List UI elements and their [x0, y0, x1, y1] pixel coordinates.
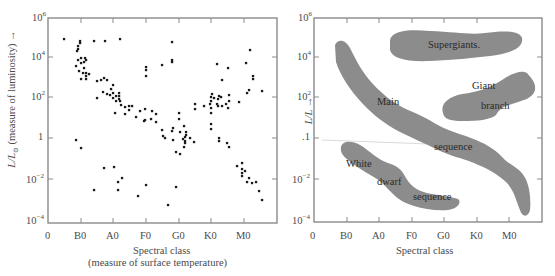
label-white: White: [346, 158, 372, 169]
data-point: [79, 42, 81, 44]
data-point: [124, 113, 126, 115]
data-point: [183, 125, 185, 127]
data-point: [178, 118, 180, 120]
data-point: [236, 165, 238, 167]
right-x-tick: G0: [437, 230, 450, 241]
data-point: [145, 184, 147, 186]
data-point: [112, 92, 114, 94]
data-point: [63, 38, 65, 40]
data-point: [258, 190, 260, 192]
right-y-tick-1e4: 104: [297, 49, 311, 62]
data-point: [93, 40, 95, 42]
faint-guide-line: [322, 140, 430, 144]
right-x-tick: M0: [502, 230, 517, 241]
data-point: [175, 186, 177, 188]
right-x-tick: A0: [372, 230, 385, 241]
right-y-tick-1e6: 106: [298, 10, 312, 23]
right-x-tick: F0: [406, 230, 417, 241]
left-y-tick-1e-4: 10−4: [26, 213, 44, 226]
data-point: [217, 105, 219, 107]
data-point: [213, 97, 215, 99]
left-x-tick: A0: [106, 230, 119, 241]
data-point: [80, 78, 82, 80]
data-point: [118, 98, 120, 100]
data-point: [241, 175, 243, 177]
data-point: [210, 100, 212, 102]
data-point: [145, 69, 147, 71]
left-y-tick-1e6: 106: [32, 10, 46, 23]
data-point: [78, 70, 80, 72]
data-point: [172, 139, 174, 141]
left-plot-frame: [48, 18, 277, 223]
data-point: [80, 57, 82, 59]
left-data-points: [63, 38, 263, 206]
data-point: [137, 195, 139, 197]
data-point: [83, 67, 85, 69]
data-point: [184, 136, 186, 138]
data-point: [84, 57, 86, 59]
data-point: [184, 142, 186, 144]
right-x-tick: K0: [470, 230, 483, 241]
data-point: [161, 64, 163, 66]
data-point: [112, 97, 114, 99]
data-point: [155, 113, 157, 115]
data-point: [76, 50, 78, 52]
data-point: [238, 101, 240, 103]
data-point: [117, 189, 119, 191]
data-point: [144, 108, 146, 110]
left-y-tick-1e-2: 10−2: [26, 172, 44, 185]
data-point: [96, 80, 98, 82]
data-point: [209, 103, 211, 105]
data-point: [112, 84, 114, 86]
data-point: [115, 95, 117, 97]
data-point: [249, 49, 251, 51]
data-point: [77, 59, 79, 61]
left-x-tick: M0: [236, 230, 251, 241]
left-x-tick: G0: [172, 230, 185, 241]
data-point: [210, 123, 212, 125]
data-point: [119, 38, 121, 40]
label-supergiants: Supergiants.: [428, 39, 480, 50]
region-main-sequence: [335, 41, 530, 216]
right-x-tick: 0: [310, 230, 315, 241]
left-x-ticks: [81, 18, 244, 223]
data-point: [228, 100, 230, 102]
data-point: [131, 105, 133, 107]
left-x-tick: K0: [204, 230, 217, 241]
data-point: [103, 167, 105, 169]
data-point: [225, 103, 227, 105]
data-point: [252, 75, 254, 77]
data-point: [115, 100, 117, 102]
right-y-tick-1e-4: 10−4: [292, 213, 310, 226]
data-point: [100, 79, 102, 81]
label-giant: Giant: [472, 80, 495, 91]
data-point: [102, 91, 104, 93]
data-point: [216, 63, 218, 65]
left-y-tick-1e2: 102: [31, 89, 45, 102]
right-x-tick: B0: [340, 230, 352, 241]
data-point: [185, 131, 187, 133]
data-point: [221, 105, 223, 107]
left-y-axis-title: L/L⊙ (measure of luminosity) →: [6, 14, 20, 184]
label-dwarf: dwarf: [377, 176, 402, 187]
data-point: [83, 61, 85, 63]
data-point: [252, 78, 254, 80]
data-point: [121, 177, 123, 179]
data-point: [218, 140, 220, 142]
data-point: [255, 181, 257, 183]
data-point: [261, 90, 263, 92]
data-point: [109, 94, 111, 96]
data-point: [139, 110, 141, 112]
data-point: [113, 166, 115, 168]
data-point: [88, 73, 90, 75]
data-point: [171, 61, 173, 63]
data-point: [216, 103, 218, 105]
label-main: Main: [377, 96, 399, 107]
label-wd-sequence: sequence: [413, 191, 451, 202]
data-point: [82, 72, 84, 74]
data-point: [179, 153, 181, 155]
data-point: [161, 129, 163, 131]
data-point: [211, 93, 213, 95]
data-point: [167, 204, 169, 206]
data-point: [194, 108, 196, 110]
